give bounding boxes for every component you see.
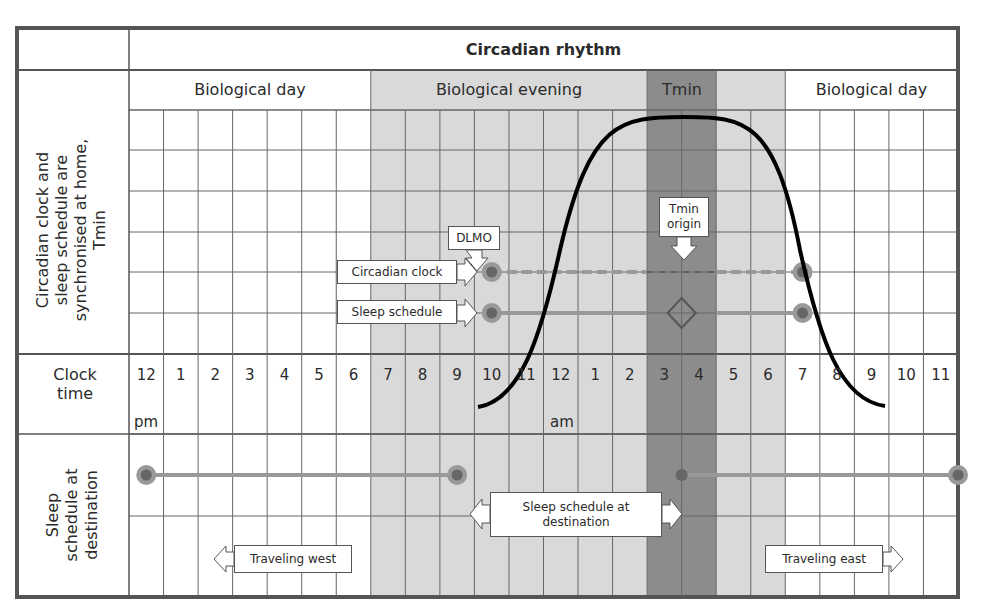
hour-label: 2 bbox=[198, 366, 233, 384]
callout-sleep-schedule-destination-text: Sleep schedule at destination bbox=[521, 500, 631, 530]
hour-label: 12 bbox=[544, 366, 579, 384]
callout-dlmo: DLMO bbox=[448, 226, 500, 250]
hour-label: 10 bbox=[474, 366, 509, 384]
band-biological-evening: Biological evening bbox=[371, 70, 647, 110]
sleep-schedule-start-marker bbox=[486, 308, 497, 319]
am-label: am bbox=[547, 413, 577, 431]
traveling-east-arrow-icon bbox=[883, 546, 903, 572]
row-label-destination: Sleep schedule at destination bbox=[32, 435, 112, 595]
hour-label: 12 bbox=[129, 366, 164, 384]
hour-label: 8 bbox=[820, 366, 855, 384]
callout-tmin-origin: Tmin origin bbox=[659, 197, 709, 237]
hour-label: 10 bbox=[889, 366, 924, 384]
band-biological-day-1: Biological day bbox=[129, 70, 371, 110]
hour-label: 3 bbox=[233, 366, 268, 384]
hour-label: 1 bbox=[164, 366, 199, 384]
row-label-clock: Clock time bbox=[40, 362, 110, 406]
hour-label: 9 bbox=[440, 366, 475, 384]
hour-label: 8 bbox=[405, 366, 440, 384]
circadian-diagram: Circadian rhythm Biological day Biologic… bbox=[0, 0, 981, 614]
hour-label: 5 bbox=[716, 366, 751, 384]
hour-label: 9 bbox=[854, 366, 889, 384]
callout-traveling-east: Traveling east bbox=[765, 545, 883, 573]
hour-label: 3 bbox=[647, 366, 682, 384]
destination-east-end-marker bbox=[953, 470, 964, 481]
chart-title: Circadian rhythm bbox=[129, 30, 958, 70]
band-biological-day-2: Biological day bbox=[785, 70, 958, 110]
band-tmin: Tmin bbox=[647, 70, 717, 110]
row-label-home: Circadian clock and sleep schedule are s… bbox=[29, 108, 113, 352]
circadian-clock-start-marker bbox=[486, 267, 497, 278]
hour-label: 7 bbox=[785, 366, 820, 384]
pm-label: pm bbox=[131, 413, 161, 431]
hour-label: 6 bbox=[751, 366, 786, 384]
destination-west-start-marker bbox=[141, 470, 152, 481]
hour-label: 6 bbox=[336, 366, 371, 384]
destination-east-start-marker bbox=[676, 469, 688, 481]
hour-label: 7 bbox=[371, 366, 406, 384]
callout-sleep-schedule-destination: Sleep schedule at destination bbox=[490, 492, 662, 537]
destination-west-end-marker bbox=[452, 470, 463, 481]
callout-sleep-schedule: Sleep schedule bbox=[337, 300, 457, 324]
callout-traveling-west: Traveling west bbox=[234, 545, 352, 573]
row-label-destination-text: Sleep schedule at destination bbox=[43, 455, 101, 575]
hour-label: 4 bbox=[682, 366, 717, 384]
sleep-schedule-end-marker bbox=[797, 308, 808, 319]
hour-label: 2 bbox=[613, 366, 648, 384]
hour-label: 4 bbox=[267, 366, 302, 384]
traveling-west-arrow-icon bbox=[214, 546, 234, 572]
callout-circadian-clock: Circadian clock bbox=[337, 260, 457, 284]
hour-label: 11 bbox=[923, 366, 958, 384]
row-label-home-text: Circadian clock and sleep schedule are s… bbox=[33, 130, 110, 330]
hour-label: 11 bbox=[509, 366, 544, 384]
hour-label: 5 bbox=[302, 366, 337, 384]
hour-label: 1 bbox=[578, 366, 613, 384]
